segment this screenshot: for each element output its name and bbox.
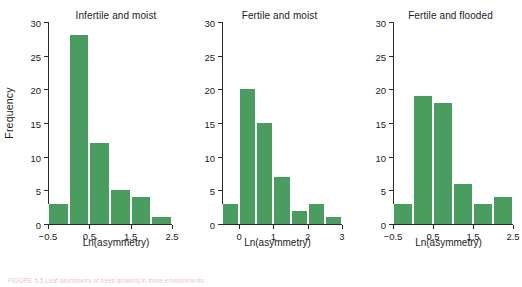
y-axis-label: Frequency — [0, 0, 20, 225]
y-tick-label: 30 — [30, 18, 41, 29]
histogram-bar — [110, 190, 131, 224]
y-tick-label: 5 — [381, 186, 386, 197]
histogram-bar — [273, 177, 290, 224]
x-tick — [89, 225, 90, 229]
x-axis-label: Ln(asymmetry) — [180, 237, 363, 248]
plot-area-2: 0510152025300123 — [222, 22, 342, 225]
y-tick-label: 10 — [204, 152, 215, 163]
y-tick — [218, 224, 222, 225]
y-tick — [44, 22, 48, 23]
x-axis-line — [393, 224, 513, 225]
histogram-bar — [325, 217, 342, 224]
y-axis-line — [222, 22, 223, 225]
y-tick-label: 25 — [375, 51, 386, 62]
histogram-bar — [473, 204, 493, 224]
histogram-bar — [69, 35, 90, 224]
histogram-bar — [393, 204, 413, 224]
y-tick-label: 20 — [30, 85, 41, 96]
histogram-bar — [256, 123, 273, 224]
y-axis-line — [393, 22, 394, 225]
y-tick-label: 20 — [375, 85, 386, 96]
x-tick — [239, 225, 240, 229]
y-tick — [389, 123, 393, 124]
y-tick — [44, 123, 48, 124]
y-tick — [44, 89, 48, 90]
y-tick-label: 30 — [375, 18, 386, 29]
figure-container: Frequency Infertile and moist 0510152025… — [0, 0, 522, 287]
y-axis-label-text: Frequency — [3, 87, 15, 138]
x-tick — [433, 225, 434, 229]
y-tick — [44, 157, 48, 158]
y-tick-label: 5 — [210, 186, 215, 197]
y-tick-label: 15 — [30, 119, 41, 130]
y-tick — [389, 89, 393, 90]
y-tick — [218, 89, 222, 90]
histogram-bar — [291, 211, 308, 224]
y-tick — [44, 190, 48, 191]
y-tick — [389, 22, 393, 23]
panels-row: Frequency Infertile and moist 0510152025… — [0, 0, 522, 258]
y-tick-label: 25 — [30, 51, 41, 62]
x-tick — [342, 225, 343, 229]
y-tick — [218, 22, 222, 23]
histogram-bar — [433, 103, 453, 224]
histogram-bar — [453, 184, 473, 224]
histogram-bar — [131, 197, 152, 224]
y-tick-label: 25 — [204, 51, 215, 62]
y-tick-label: 0 — [381, 220, 386, 231]
y-tick — [389, 56, 393, 57]
y-tick-label: 15 — [204, 119, 215, 130]
y-tick-label: 0 — [210, 220, 215, 231]
y-axis-line — [48, 22, 49, 225]
y-tick-label: 10 — [30, 152, 41, 163]
chart-panel-infertile-and-moist: Frequency Infertile and moist 0510152025… — [0, 0, 180, 258]
x-tick — [473, 225, 474, 229]
x-tick — [48, 225, 49, 229]
histogram-bar — [89, 143, 110, 224]
y-tick-label: 0 — [36, 220, 41, 231]
x-tick — [393, 225, 394, 229]
histogram-bar — [48, 204, 69, 224]
histogram-bar — [413, 96, 433, 224]
x-axis-label: Ln(asymmetry) — [0, 237, 206, 248]
plot-area-1: 051015202530−0.50.51.52.5 — [48, 22, 172, 225]
y-tick — [218, 123, 222, 124]
y-tick — [218, 56, 222, 57]
y-tick-label: 15 — [375, 119, 386, 130]
plot-area-3: 051015202530−0.50.51.52.5 — [393, 22, 513, 225]
x-tick — [513, 225, 514, 229]
chart-panel-fertile-and-moist: Fertile and moist 0510152025300123 Ln(as… — [180, 0, 351, 258]
y-tick — [389, 157, 393, 158]
y-tick-label: 10 — [375, 152, 386, 163]
histogram-bar — [493, 197, 513, 224]
y-tick — [389, 190, 393, 191]
histogram-bar — [151, 217, 172, 224]
x-axis-label: Ln(asymmetry) — [351, 237, 522, 248]
histogram-bar — [222, 204, 239, 224]
y-tick-label: 30 — [204, 18, 215, 29]
x-tick — [131, 225, 132, 229]
histogram-bar — [239, 89, 256, 224]
chart-panel-fertile-and-flooded: Fertile and flooded 051015202530−0.50.51… — [351, 0, 522, 258]
x-tick — [172, 225, 173, 229]
y-tick — [218, 157, 222, 158]
x-tick — [308, 225, 309, 229]
y-tick — [218, 190, 222, 191]
y-tick-label: 20 — [204, 85, 215, 96]
figure-caption: FIGURE 5.5 Leaf asymmetry of trees growi… — [8, 277, 514, 284]
x-axis-line — [48, 224, 172, 225]
y-tick-label: 5 — [36, 186, 41, 197]
x-tick — [273, 225, 274, 229]
histogram-bar — [308, 204, 325, 224]
y-tick — [44, 56, 48, 57]
